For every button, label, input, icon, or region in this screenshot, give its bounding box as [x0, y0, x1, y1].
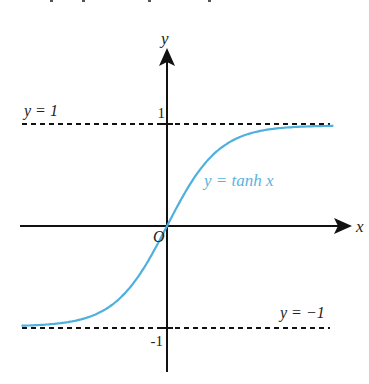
y-tick-label-minus-1: -1	[151, 333, 164, 349]
chart: x y O 1 -1 y = 1 y = −1 y = tanh x	[0, 0, 369, 384]
origin-label: O	[153, 228, 165, 245]
x-axis-label: x	[355, 217, 364, 236]
asymptote-label-bottom: y = −1	[278, 304, 325, 322]
cropped-text-fragments	[50, 0, 211, 2]
y-axis-label: y	[159, 29, 169, 48]
curve-label: y = tanh x	[202, 171, 274, 190]
asymptote-label-top: y = 1	[22, 102, 58, 120]
y-tick-label-1: 1	[158, 105, 166, 121]
